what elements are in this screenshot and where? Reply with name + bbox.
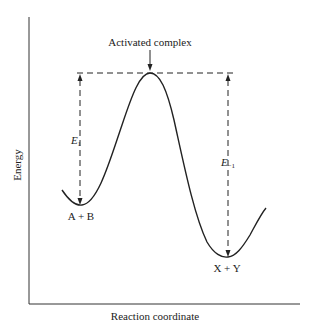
activated-complex-label: Activated complex xyxy=(108,36,192,48)
reverse-energy-label: E−1 xyxy=(220,156,236,170)
arrow-up-icon xyxy=(226,74,231,81)
reactants-label: A + B xyxy=(68,210,94,222)
arrow-down-icon xyxy=(78,198,83,205)
energy-diagram: Activated complex E1 E−1 A + B X + Y Rea… xyxy=(0,0,314,328)
x-axis-label: Reaction coordinate xyxy=(111,310,199,322)
arrow-up-icon xyxy=(78,74,83,81)
energy-curve xyxy=(62,73,266,257)
forward-energy-label: E1 xyxy=(70,134,82,148)
y-axis-label: Energy xyxy=(11,149,23,181)
arrow-down-icon xyxy=(148,64,153,71)
products-label: X + Y xyxy=(213,262,240,274)
